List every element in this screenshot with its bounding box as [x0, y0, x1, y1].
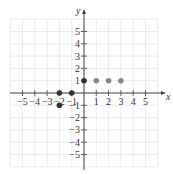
y-tick-label: −4 [69, 137, 80, 148]
y-tick-label: 3 [75, 51, 80, 62]
x-tick-label: 3 [118, 96, 123, 107]
data-point [106, 78, 112, 84]
x-tick-label: 5 [143, 96, 148, 107]
data-point [57, 103, 63, 109]
axes [10, 9, 166, 170]
data-point [94, 78, 100, 84]
y-tick-label: −3 [69, 124, 80, 135]
x-tick-label: −3 [42, 96, 53, 107]
data-point [69, 90, 75, 96]
y-tick-label: 5 [75, 26, 80, 37]
y-tick-label: −2 [69, 112, 80, 123]
x-tick-label: −5 [17, 96, 28, 107]
data-point [81, 78, 87, 84]
x-tick-label: −4 [29, 96, 40, 107]
y-tick-label: 1 [75, 75, 80, 86]
y-tick-label: −1 [69, 100, 80, 111]
x-tick-label: 4 [131, 96, 136, 107]
x-axis-label: x [165, 91, 171, 102]
y-axis-label: y [75, 5, 81, 16]
data-point [118, 78, 124, 84]
x-tick-label: 1 [94, 96, 99, 107]
data-point [57, 90, 63, 96]
y-tick-label: 2 [75, 63, 80, 74]
coordinate-plane: −5−4−3−2−112345−5−4−3−2−112345 x y [0, 0, 173, 174]
y-tick-label: 4 [75, 38, 80, 49]
y-tick-label: −5 [69, 149, 80, 160]
x-tick-label: 2 [106, 96, 111, 107]
